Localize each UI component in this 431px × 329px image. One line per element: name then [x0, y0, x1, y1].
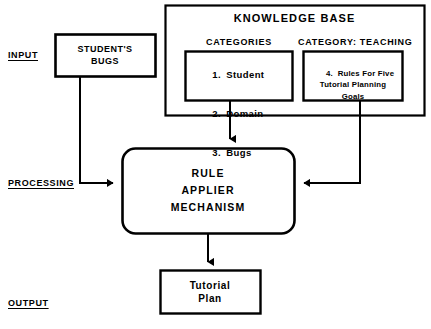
categories-list: 1.Student 2.Domain 3.Bugs [194, 55, 289, 172]
category-teaching-item-4: 4. Rules For Five Tutorial Planning Goal… [307, 56, 399, 114]
list-item-number: 3. [212, 146, 226, 159]
categories-list-item-2: 2.Domain [194, 94, 289, 133]
list-item-label: Bugs [226, 147, 251, 158]
category-teaching-header: CATEGORY: TEACHING [298, 37, 408, 47]
list-item-label: Student [226, 69, 264, 80]
list-item-number: 1. [212, 68, 226, 81]
stage-label-processing: PROCESSING [8, 178, 74, 188]
students-bugs-label: STUDENT'S BUGS [55, 44, 155, 67]
diagram-canvas: INPUT PROCESSING OUTPUT KNOWLEDGE BASE C… [0, 0, 431, 329]
edge-bugs-to-rule [80, 77, 113, 183]
rule-applier-label: RULE APPLIER MECHANISM [122, 165, 294, 216]
categories-list-item-1: 1.Student [194, 55, 289, 94]
stage-label-input: INPUT [8, 50, 38, 60]
categories-header: CATEGORIES [185, 37, 293, 47]
list-item-number: 2. [212, 107, 226, 120]
knowledge-base-title: KNOWLEDGE BASE [165, 12, 424, 24]
tutorial-plan-label: Tutorial Plan [160, 279, 260, 305]
list-item-number: 4. [326, 69, 333, 78]
stage-label-output: OUTPUT [8, 298, 49, 308]
list-item-label: Domain [226, 108, 263, 119]
category-teaching-list: 4. Rules For Five Tutorial Planning Goal… [307, 56, 399, 114]
